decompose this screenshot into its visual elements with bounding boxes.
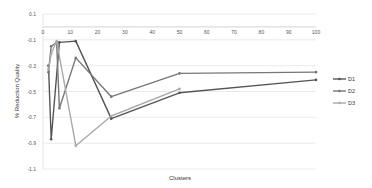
series-line-d1 [49,41,317,139]
legend-label-d1: D1 [348,76,355,82]
series-line-d3 [49,41,180,146]
data-point [50,53,53,56]
legend-marker [338,78,341,81]
data-point [50,45,53,48]
legend-marker [338,102,341,105]
y-tick-label: -1.1 [27,166,36,172]
data-point [178,91,181,94]
data-point [47,71,50,74]
x-tick-label: 100 [312,29,321,35]
legend-label-d3: D3 [348,100,355,106]
x-tick-label: 0 [42,29,45,35]
data-point [55,40,58,43]
data-point [58,107,61,110]
x-axis-title: Clusters [169,175,191,181]
data-point [178,72,181,75]
x-tick-label: 10 [68,29,74,35]
legend-label-d2: D2 [348,88,355,94]
legend: D1D2D3 [333,76,355,106]
data-point [47,68,50,71]
x-tick-label: 90 [286,29,292,35]
x-tick-label: 40 [149,29,155,35]
y-tick-label: -0.3 [27,63,36,69]
data-point [74,57,77,60]
y-tick-label: -0.5 [27,89,36,95]
line-chart: 0.1-0.1-0.3-0.5-0.7-0.9-1.1 010203040506… [0,0,372,188]
series-lines [47,40,317,147]
data-point [110,95,113,98]
data-point [315,71,318,74]
x-axis: 0102030405060708090100 [42,27,321,35]
data-point [74,144,77,147]
x-tick-label: 60 [204,29,210,35]
data-point [315,79,318,82]
y-tick-label: 0.1 [29,11,36,17]
data-point [74,40,77,43]
data-point [178,88,181,91]
x-tick-label: 20 [95,29,101,35]
x-tick-label: 30 [122,29,128,35]
y-tick-label: -0.1 [27,37,36,43]
x-tick-label: 80 [259,29,265,35]
data-point [110,115,113,118]
data-point [50,138,53,141]
y-axis-ticks: 0.1-0.1-0.3-0.5-0.7-0.9-1.1 [27,11,36,172]
x-tick-label: 70 [231,29,237,35]
legend-marker [338,90,341,93]
y-tick-label: -0.9 [27,140,36,146]
x-tick-label: 50 [177,29,183,35]
y-axis-title: % Reduction Quality [14,64,20,118]
y-tick-label: -0.7 [27,114,36,120]
data-point [58,41,61,44]
series-line-d2 [49,42,317,108]
